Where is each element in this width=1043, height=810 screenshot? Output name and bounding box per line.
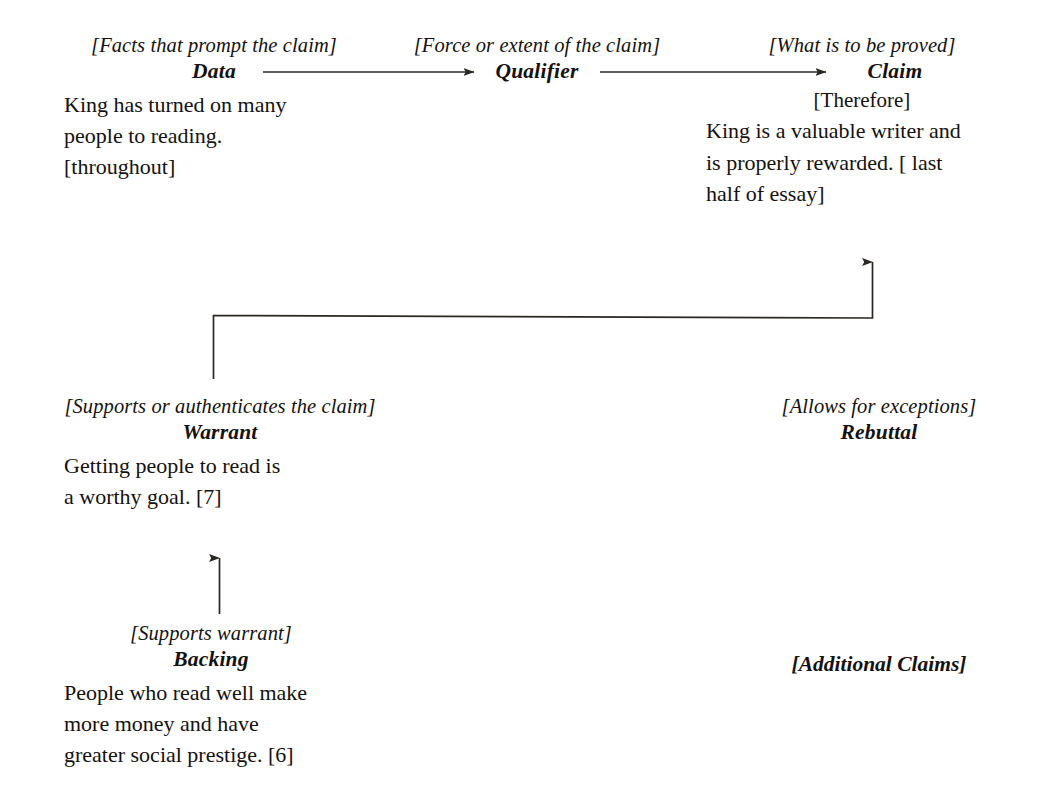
node-additional-claims: [Additional Claims]	[748, 652, 1010, 677]
data-role-name: Data	[64, 59, 364, 84]
claim-role-name: Claim	[706, 59, 1018, 84]
rebuttal-role-name: Rebuttal	[748, 420, 1010, 445]
warrant-function-label: [Supports or authenticates the claim]	[44, 394, 396, 418]
data-function-label: [Facts that prompt the claim]	[64, 33, 364, 57]
data-body-text: King has turned on many people to readin…	[64, 89, 364, 183]
toulmin-diagram: [Facts that prompt the claim] Data King …	[0, 0, 1043, 810]
node-claim: [What is to be proved] Claim [Therefore]…	[706, 33, 1018, 209]
backing-body-text: People who read well make more money and…	[64, 677, 376, 771]
warrant-role-name: Warrant	[44, 420, 396, 445]
claim-connective: [Therefore]	[706, 88, 1018, 113]
node-data: [Facts that prompt the claim] Data King …	[64, 33, 364, 182]
qualifier-role-name: Qualifier	[396, 59, 678, 84]
warrant-body-text: Getting people to read is a worthy goal.…	[44, 450, 396, 512]
claim-body-text: King is a valuable writer and is properl…	[706, 115, 1018, 209]
node-backing: [Supports warrant] Backing People who re…	[64, 621, 376, 770]
qualifier-function-label: [Force or extent of the claim]	[396, 33, 678, 57]
node-warrant: [Supports or authenticates the claim] Wa…	[44, 394, 396, 512]
node-qualifier: [Force or extent of the claim] Qualifier	[396, 33, 678, 85]
connector-warrant-to-claim	[214, 262, 873, 379]
additional-claims-label: [Additional Claims]	[748, 652, 1010, 677]
backing-role-name: Backing	[64, 647, 376, 672]
claim-function-label: [What is to be proved]	[706, 33, 1018, 57]
rebuttal-function-label: [Allows for exceptions]	[748, 394, 1010, 418]
backing-function-label: [Supports warrant]	[64, 621, 376, 645]
node-rebuttal: [Allows for exceptions] Rebuttal	[748, 394, 1010, 446]
